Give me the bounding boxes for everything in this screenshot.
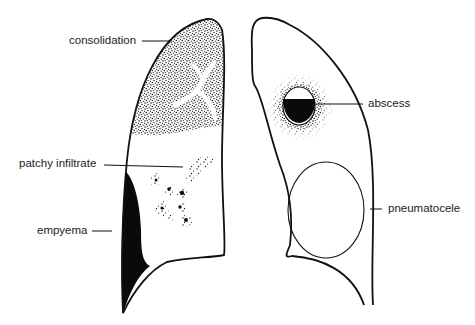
label-empyema: empyema	[37, 225, 88, 237]
abscess-region	[267, 74, 333, 140]
label-pneumatocele: pneumatocele	[388, 203, 460, 215]
label-consolidation: consolidation	[69, 35, 136, 47]
label-patchy-infiltrate: patchy infiltrate	[19, 158, 96, 170]
consolidation-region	[125, 20, 230, 135]
right-lung	[252, 18, 374, 305]
pneumatocele-region	[288, 162, 364, 258]
label-abscess: abscess	[368, 98, 410, 110]
